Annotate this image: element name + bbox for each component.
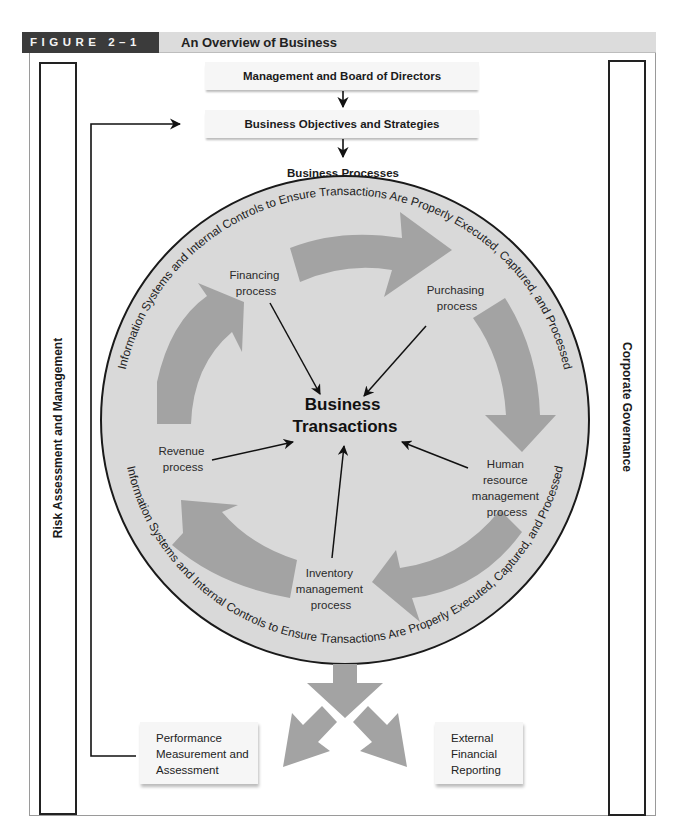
- output-arrow-left: [283, 706, 337, 767]
- external-financial-reporting-box: External Financial Reporting: [435, 722, 523, 784]
- business-overview-diagram: Information Systems and Internal Control…: [0, 0, 686, 831]
- performance-measurement-box: Performance Measurement and Assessment: [140, 722, 258, 784]
- output-arrow-right: [353, 706, 407, 767]
- output-arrows: [283, 664, 407, 767]
